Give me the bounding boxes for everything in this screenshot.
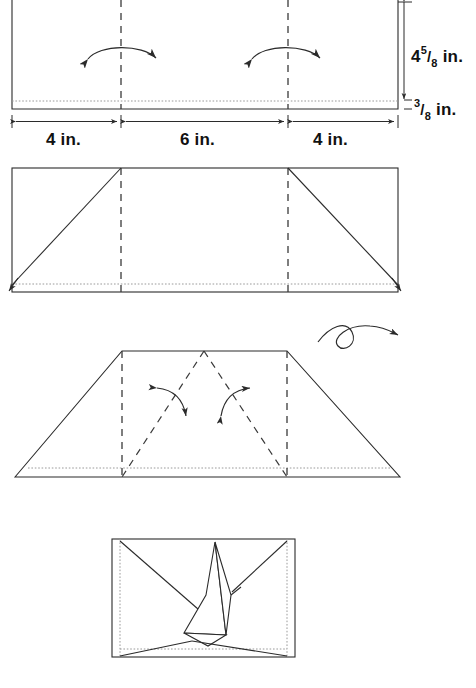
diagram-canvas: 45/8 in. 3/8 in. 4 in. 6 in. 4 in.: [0, 0, 476, 688]
dimension-height-main: [398, 2, 412, 99]
flip-over-loop-icon: [318, 326, 398, 349]
label-height-main: 45/8 in.: [411, 46, 463, 68]
dimension-widths: [12, 115, 398, 128]
dimension-height-flap: [404, 100, 412, 109]
step1-sheet-outline: [12, 0, 398, 109]
label-width-left: 4 in.: [46, 131, 81, 148]
step3-trapezoid-outline: [15, 351, 400, 477]
step2-sheet-outline: [12, 168, 398, 292]
panel-step-2: [0, 160, 476, 310]
panel-step-3: [0, 320, 476, 500]
panel-step-4: [0, 515, 476, 685]
label-height-flap: 3/8 in.: [414, 99, 456, 121]
label-width-center: 6 in.: [180, 131, 215, 148]
label-width-right: 4 in.: [313, 131, 348, 148]
